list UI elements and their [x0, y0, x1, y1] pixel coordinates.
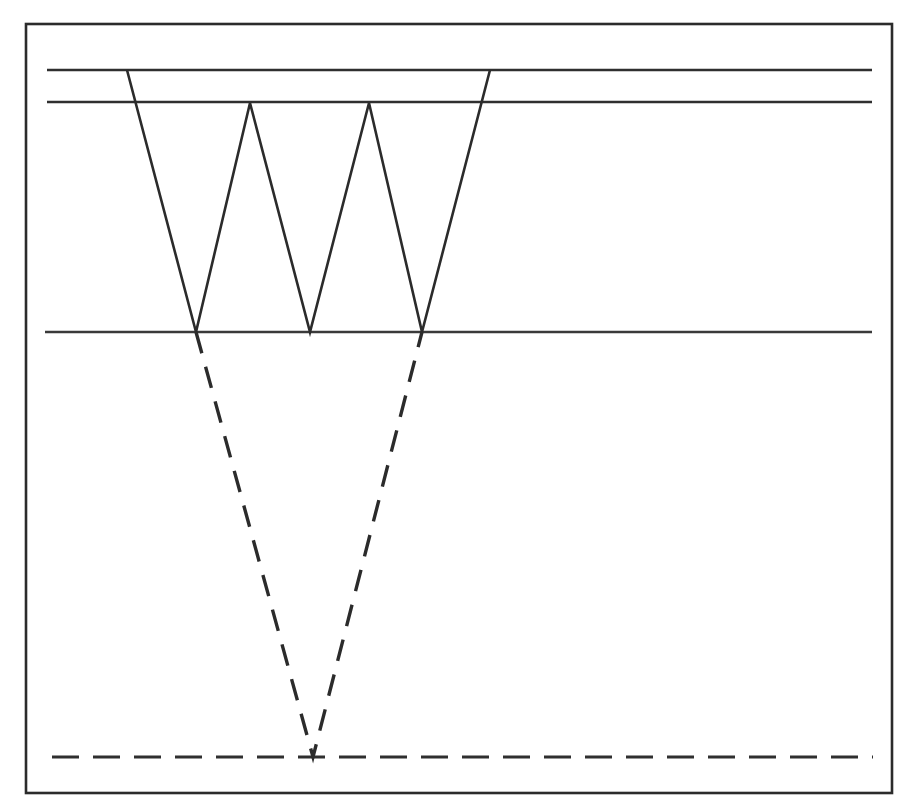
solid-zigzag-path: [127, 70, 490, 332]
figure-canvas: [0, 0, 913, 811]
outer-border-rect: [26, 24, 892, 793]
figure-root: [0, 0, 913, 811]
dashed-v-path: [196, 332, 422, 757]
